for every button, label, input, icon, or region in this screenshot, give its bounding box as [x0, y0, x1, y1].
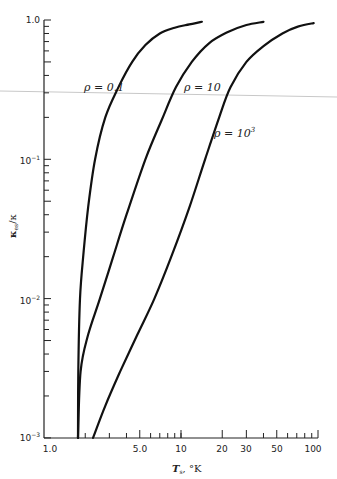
- x-tick-label-10: 10: [175, 444, 187, 454]
- x-tick-label-100: 100: [304, 444, 321, 454]
- y-axis-title: κes/κ: [7, 213, 19, 238]
- chart: 1.0 10−1 10−2 10−3 1.0 5.0 10 20 30 50 1…: [0, 0, 337, 479]
- curve-label-rho-0.1: ρ = 0.1: [83, 81, 124, 94]
- curve-label-rho-1000: ρ = 103: [213, 126, 256, 140]
- y-ticks: [44, 20, 51, 438]
- x-tick-label-30: 30: [240, 444, 252, 454]
- y-tick-label-0.01: 10−2: [20, 294, 40, 306]
- x-axis-title: Ts, °K: [172, 463, 202, 475]
- y-tick-label-1: 1.0: [26, 15, 41, 25]
- x-tick-label-50: 50: [271, 444, 283, 454]
- x-ticks: [85, 430, 318, 438]
- curve-label-rho-10: ρ = 10: [183, 81, 221, 94]
- y-tick-label-0.1: 10−1: [20, 154, 40, 166]
- scan-line: [0, 91, 337, 97]
- x-tick-label-5: 5.0: [133, 444, 148, 454]
- x-tick-label-1: 1.0: [43, 444, 58, 454]
- x-tick-label-20: 20: [216, 444, 228, 454]
- y-tick-label-0.001: 10−3: [20, 431, 40, 443]
